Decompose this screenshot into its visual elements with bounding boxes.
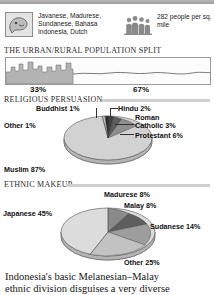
- caption-line-2: ethnic division disguises a very diverse: [5, 283, 211, 295]
- density-text: 282 people per sq. mile: [157, 13, 214, 29]
- section-header-ethnic: ETHNIC MAKEUP: [4, 180, 72, 189]
- ethnic-label-madurese: Madurese 8%: [104, 190, 150, 199]
- religion-label-catholic: Catholic 3%: [135, 121, 176, 130]
- caption: Indonesia's basic Melanesian–Malay ethni…: [5, 271, 211, 295]
- religion-label-other: Other 1%: [4, 121, 36, 130]
- religion-label-buddhist: Buddhist 1%: [36, 104, 80, 113]
- crowd-people-icon: [124, 13, 152, 35]
- languages-text: Javanese, Madurese, Sundanese, Bahasa In…: [38, 12, 117, 37]
- urban-rural-chart: [5, 57, 211, 85]
- languages-fact: Javanese, Madurese, Sundanese, Bahasa In…: [5, 12, 117, 37]
- caption-line-1: Indonesia's basic Melanesian–Malay: [5, 271, 159, 282]
- rural-percent-label: 67%: [133, 85, 149, 94]
- urban-percent-label: 33%: [30, 85, 46, 94]
- facts-row: Javanese, Madurese, Sundanese, Bahasa In…: [0, 9, 214, 45]
- religion-label-protestant: Protestant 6%: [135, 131, 183, 140]
- ethnic-label-other: Other 25%: [124, 258, 160, 267]
- leader-line-catholic: [115, 124, 134, 125]
- religion-label-hindu: Hindu 2%: [118, 104, 151, 113]
- religion-label-muslim: Muslim 87%: [4, 165, 45, 174]
- density-fact: 282 people per sq. mile: [124, 13, 214, 35]
- ethnic-header-rule: [66, 184, 210, 187]
- speech-head-icon: [5, 12, 33, 37]
- ethnic-label-malay: Malay 8%: [124, 201, 156, 210]
- section-header-religion: RELIGIOUS PERSUASION: [4, 95, 103, 104]
- ethnic-label-japanese: Japanese 45%: [3, 209, 52, 218]
- infographic-page: Javanese, Madurese, Sundanese, Bahasa In…: [0, 0, 214, 295]
- ethnic-label-sudanese: Sudanese 14%: [150, 222, 200, 231]
- leader-line-hindu: [110, 108, 111, 117]
- leader-line-hindu-h: [110, 108, 118, 109]
- section-header-urban-rural: THE URBAN/RURAL POPULATION SPLIT: [4, 46, 161, 55]
- religion-header-rule: [102, 99, 210, 102]
- top-divider-bar: [0, 0, 214, 4]
- leader-line-protestant: [120, 134, 134, 135]
- leader-line-buddhist: [96, 108, 97, 118]
